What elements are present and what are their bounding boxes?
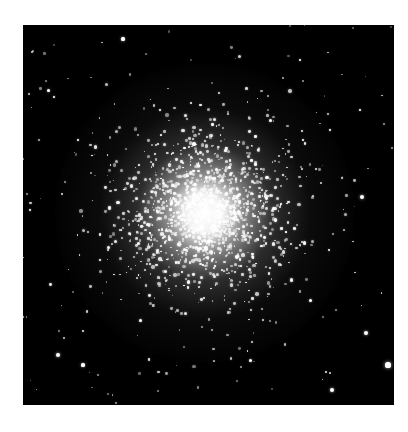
star xyxy=(254,135,256,137)
star xyxy=(215,261,217,263)
star xyxy=(176,365,177,366)
star xyxy=(199,243,201,245)
star xyxy=(111,243,113,245)
star xyxy=(236,228,237,229)
star xyxy=(265,197,268,200)
star xyxy=(38,139,41,142)
star xyxy=(135,237,138,240)
star xyxy=(213,225,215,227)
star xyxy=(276,204,279,207)
star xyxy=(282,77,283,78)
star xyxy=(255,175,258,178)
star xyxy=(235,181,237,183)
star xyxy=(155,184,158,187)
star xyxy=(190,182,192,184)
star xyxy=(226,219,229,222)
star xyxy=(159,183,161,185)
star xyxy=(79,209,83,213)
star xyxy=(319,123,320,124)
star xyxy=(226,215,229,218)
star xyxy=(138,274,139,275)
star xyxy=(61,193,62,194)
star xyxy=(228,166,230,168)
star xyxy=(256,180,260,184)
star xyxy=(176,309,179,312)
star xyxy=(287,201,290,204)
star xyxy=(354,272,356,274)
star xyxy=(77,234,78,235)
star xyxy=(199,206,201,208)
star xyxy=(198,281,201,284)
star xyxy=(26,193,28,195)
star xyxy=(154,200,156,202)
star xyxy=(250,159,253,162)
star xyxy=(165,113,168,116)
star xyxy=(175,158,178,161)
star xyxy=(309,299,312,302)
star xyxy=(109,181,111,183)
star xyxy=(150,180,151,181)
star xyxy=(173,212,174,213)
star xyxy=(142,253,143,254)
star xyxy=(227,247,230,250)
star xyxy=(122,218,124,220)
star xyxy=(147,209,149,211)
star xyxy=(138,224,139,225)
star xyxy=(259,212,262,215)
star xyxy=(327,52,329,54)
star xyxy=(381,95,383,97)
star xyxy=(251,297,254,300)
star xyxy=(248,152,251,155)
star xyxy=(136,277,138,279)
star xyxy=(269,320,271,322)
star xyxy=(29,202,31,204)
star xyxy=(170,247,172,249)
star xyxy=(200,200,201,201)
star xyxy=(172,152,174,154)
star xyxy=(156,240,158,242)
star xyxy=(192,173,195,176)
star xyxy=(233,302,236,305)
star xyxy=(325,371,327,373)
star xyxy=(260,177,263,180)
star xyxy=(139,319,142,322)
star xyxy=(198,286,200,288)
star xyxy=(115,402,117,404)
star xyxy=(247,350,248,351)
star xyxy=(136,211,137,212)
star xyxy=(170,192,172,194)
star xyxy=(239,214,242,217)
star xyxy=(234,215,237,218)
star xyxy=(301,168,302,169)
star xyxy=(129,73,131,75)
star xyxy=(107,154,108,155)
star xyxy=(215,217,217,219)
star xyxy=(203,187,205,189)
star xyxy=(322,379,323,380)
star xyxy=(176,211,179,214)
star xyxy=(207,171,210,174)
star xyxy=(197,236,201,240)
star xyxy=(89,285,91,287)
star xyxy=(242,167,246,171)
star xyxy=(237,200,239,202)
star xyxy=(167,190,170,193)
star xyxy=(162,270,165,273)
star xyxy=(228,197,230,199)
star xyxy=(241,238,245,242)
star xyxy=(243,187,244,188)
star xyxy=(157,371,159,373)
star xyxy=(237,284,239,286)
star xyxy=(246,195,248,197)
star xyxy=(153,254,155,256)
star xyxy=(53,96,56,99)
star xyxy=(265,207,268,210)
star xyxy=(209,175,212,178)
star xyxy=(242,225,245,228)
star xyxy=(302,80,304,82)
star xyxy=(295,247,297,249)
star xyxy=(272,242,276,246)
star xyxy=(332,233,334,235)
star xyxy=(150,161,152,163)
star xyxy=(192,365,195,368)
